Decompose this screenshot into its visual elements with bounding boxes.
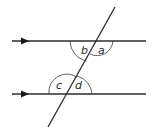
parallel-lines-diagram: b a c d — [0, 0, 153, 135]
angle-label-d: d — [75, 80, 82, 91]
top-line-arrow-icon — [21, 38, 29, 45]
angle-label-a: a — [98, 45, 105, 56]
angle-label-b: b — [81, 45, 88, 56]
angle-label-c: c — [56, 80, 62, 91]
bottom-line-arrow-icon — [21, 91, 29, 98]
transversal-line — [48, 7, 115, 127]
diagram-canvas — [0, 0, 153, 135]
